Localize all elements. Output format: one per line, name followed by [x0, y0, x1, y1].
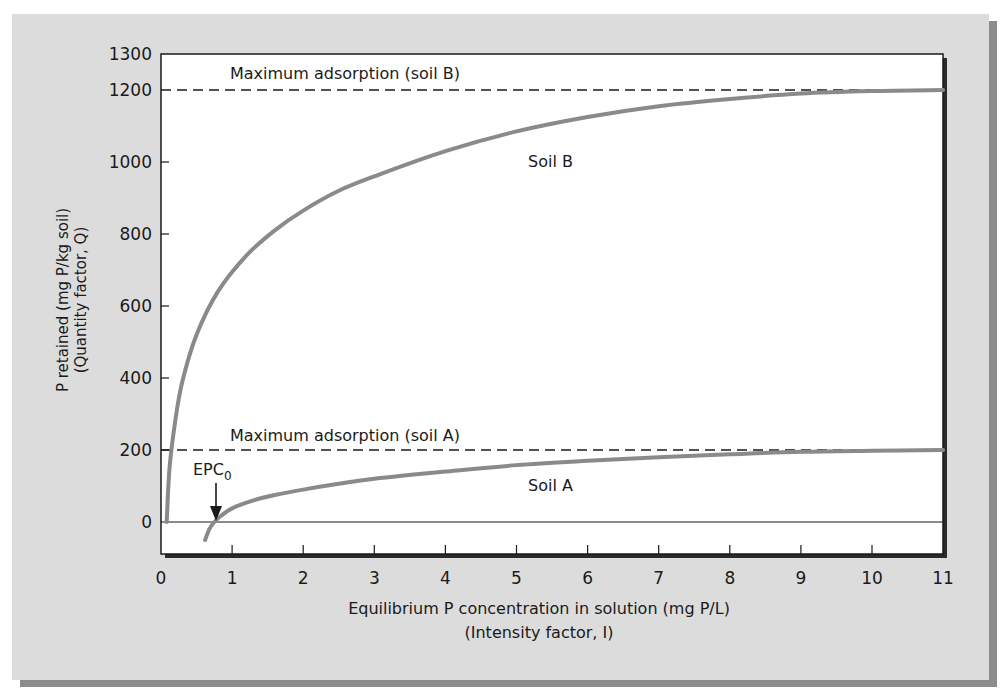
x-tick-label: 0	[156, 568, 167, 588]
phosphorus-sorption-chart: Maximum adsorption (soil B) Maximum adso…	[0, 0, 1007, 700]
y-axis-subtitle: (Quantity factor, Q)	[72, 227, 90, 374]
x-tick-label: 9	[795, 568, 806, 588]
x-tick-label: 4	[440, 568, 451, 588]
soil-b-label: Soil B	[528, 152, 573, 171]
x-tick-label: 11	[932, 568, 954, 588]
x-tick-label: 10	[861, 568, 883, 588]
y-tick-label: 1300	[109, 44, 152, 64]
x-tick-label: 3	[369, 568, 380, 588]
x-tick-label: 2	[298, 568, 309, 588]
x-tick-label: 7	[653, 568, 664, 588]
figure: Maximum adsorption (soil B) Maximum adso…	[0, 0, 1007, 700]
y-tick-label: 0	[141, 512, 152, 532]
y-tick-label: 1000	[109, 152, 152, 172]
x-tick-label: 6	[582, 568, 593, 588]
x-tick-label: 8	[724, 568, 735, 588]
y-tick-label: 400	[120, 368, 152, 388]
y-tick-label: 1200	[109, 80, 152, 100]
x-axis-title: Equilibrium P concentration in solution …	[348, 599, 730, 618]
epc-text: EPC	[193, 460, 224, 479]
y-axis-title: P retained (mg P/kg soil)	[54, 208, 72, 392]
y-tick-label: 600	[120, 296, 152, 316]
epc-subscript: 0	[224, 469, 232, 483]
y-tick-label: 200	[120, 440, 152, 460]
y-tick-label: 800	[120, 224, 152, 244]
x-tick-label: 5	[511, 568, 522, 588]
soil-a-label: Soil A	[528, 476, 573, 495]
x-axis-subtitle: (Intensity factor, I)	[465, 623, 614, 642]
max-adsorption-b-label: Maximum adsorption (soil B)	[230, 64, 460, 83]
x-tick-label: 1	[227, 568, 238, 588]
max-adsorption-a-label: Maximum adsorption (soil A)	[230, 426, 460, 445]
